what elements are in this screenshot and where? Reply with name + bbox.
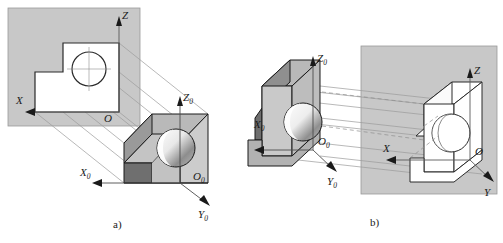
panel-a-axis-y0-label: Y0 (198, 208, 208, 223)
panel-b-origin0-label: O0 (318, 135, 330, 150)
projection-figure-svg: Z X O (0, 0, 503, 243)
panel-b-axis-y0-arrow (326, 161, 337, 172)
caption-a: a) (113, 218, 122, 230)
panel-a-axis-x0-label: X0 (79, 166, 91, 181)
panel-a-front-face-lower (124, 163, 152, 183)
panel-a-axis-z-label: Z (122, 9, 129, 21)
panel-b: Z0 X0 Y0 O0 (248, 46, 497, 198)
panel-a-axis-x0-arrow (92, 179, 102, 187)
panel-b-axis-y0-label: Y0 (327, 175, 337, 190)
panel-b-axis-z-label: Z (474, 64, 481, 76)
panel-a: Z X O (8, 8, 210, 223)
caption-b: b) (370, 216, 379, 228)
panel-a-axis-y0-arrow (199, 195, 210, 206)
panel-b-axis-x-label: X (382, 142, 391, 154)
panel-a-origin-label: O (104, 112, 112, 124)
panel-b-origin-label: O (475, 145, 483, 157)
panel-a-axis-z0-label: Z0 (183, 91, 193, 106)
figure-canvas: Z X O (0, 0, 503, 243)
panel-a-axis-x-label: X (15, 94, 24, 106)
